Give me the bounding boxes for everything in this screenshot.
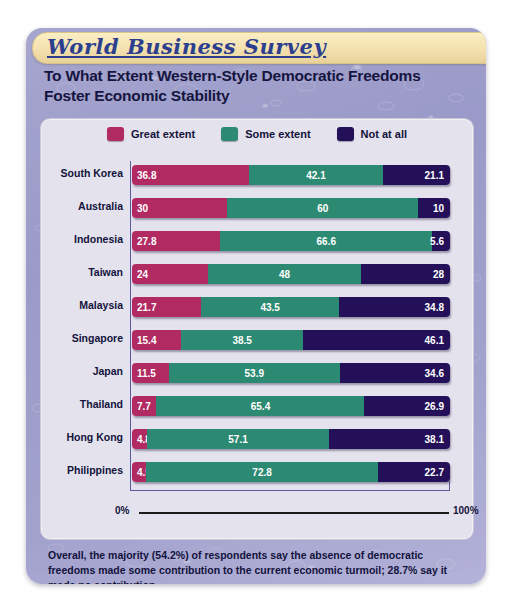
bar-segment-some: 43.5: [201, 297, 339, 317]
publication-banner: World Business Survey: [32, 32, 486, 64]
bar-segment-some: 72.8: [146, 462, 378, 482]
legend-swatch-icon-some-extent: [221, 127, 238, 141]
bar-value-label: 60: [227, 203, 418, 214]
bar-segment-none: 21.1: [383, 165, 450, 185]
bar-segment-great: 27.8: [132, 231, 220, 251]
chart-row: Thailand7.765.426.9: [53, 396, 461, 416]
stacked-bar-chart: South Korea36.842.121.1Australia306010In…: [53, 161, 461, 493]
bar-value-label: 26.9: [425, 401, 444, 412]
bar-segment-some: 38.5: [181, 330, 303, 350]
chart-row: Singapore15.438.546.1: [53, 330, 461, 350]
bar-value-label: 36.8: [137, 170, 156, 181]
bar-value-label: 72.8: [146, 467, 378, 478]
chart-row-label-taiwan: Taiwan: [53, 266, 123, 278]
stacked-bar: 306010: [132, 198, 450, 218]
chart-row-label-south-korea: South Korea: [53, 167, 123, 179]
stacked-bar: 244828: [132, 264, 450, 284]
bar-segment-great: 24: [132, 264, 208, 284]
bar-segment-some: 60: [227, 198, 418, 218]
bar-segment-none: 22.7: [378, 462, 450, 482]
bar-value-label: 28: [433, 269, 444, 280]
bar-value-label: 27.8: [137, 236, 156, 247]
x-axis-min-label: 0%: [115, 505, 129, 516]
bar-value-label: 30: [137, 203, 148, 214]
bar-segment-great: 11.5: [132, 363, 169, 383]
x-axis-baseline: [130, 490, 450, 491]
bar-value-label: 10: [433, 203, 444, 214]
bar-segment-none: 46.1: [303, 330, 450, 350]
bar-value-label: 43.5: [201, 302, 339, 313]
stacked-bar: 27.866.65.6: [132, 231, 450, 251]
chart-row-label-japan: Japan: [53, 365, 123, 377]
chart-row-label-hong-kong: Hong Kong: [53, 431, 123, 443]
legend-item-not-at-all: Not at all: [337, 127, 407, 141]
chart-row-label-philippines: Philippines: [53, 464, 123, 476]
bar-value-label: 38.5: [181, 335, 303, 346]
legend-item-some-extent: Some extent: [221, 127, 310, 141]
chart-row: Taiwan244828: [53, 264, 461, 284]
bar-segment-none: 10: [418, 198, 450, 218]
chart-legend: Great extent Some extent Not at all: [41, 127, 473, 141]
legend-label-great-extent: Great extent: [131, 128, 195, 140]
bar-value-label: 21.1: [425, 170, 444, 181]
bar-value-label: 48: [208, 269, 361, 280]
chart-row-label-indonesia: Indonesia: [53, 233, 123, 245]
bar-value-label: 42.1: [249, 170, 383, 181]
bar-value-label: 7.7: [137, 401, 151, 412]
bar-value-label: 11.5: [137, 368, 156, 379]
legend-item-great-extent: Great extent: [107, 127, 195, 141]
survey-card: World Business Survey To What Extent Wes…: [26, 28, 486, 584]
bar-segment-great: 4.5: [132, 462, 146, 482]
publication-title: World Business Survey: [47, 34, 326, 59]
bar-segment-some: 65.4: [156, 396, 364, 416]
legend-swatch-icon-not-at-all: [337, 127, 354, 141]
bar-value-label: 21.7: [137, 302, 156, 313]
chart-row-label-australia: Australia: [53, 200, 123, 212]
bar-segment-great: 21.7: [132, 297, 201, 317]
bar-segment-some: 53.9: [169, 363, 340, 383]
chart-footnote: Overall, the majority (54.2%) of respond…: [48, 548, 468, 584]
bar-value-label: 22.7: [425, 467, 444, 478]
bar-segment-some: 42.1: [249, 165, 383, 185]
bar-value-label: 53.9: [169, 368, 340, 379]
bar-segment-some: 57.1: [147, 429, 329, 449]
chart-row: Philippines4.572.822.7: [53, 462, 461, 482]
bar-segment-none: 38.1: [329, 429, 450, 449]
x-axis: 0% 100%: [53, 505, 461, 521]
legend-swatch-icon-great-extent: [107, 127, 124, 141]
bar-value-label: 34.6: [425, 368, 444, 379]
chart-row: Indonesia27.866.65.6: [53, 231, 461, 251]
chart-row-label-singapore: Singapore: [53, 332, 123, 344]
x-axis-rule: [139, 512, 449, 514]
bar-segment-none: 26.9: [364, 396, 450, 416]
bar-value-label: 34.8: [425, 302, 444, 313]
bar-segment-great: 4.8: [132, 429, 147, 449]
bar-segment-none: 34.8: [339, 297, 450, 317]
stacked-bar: 4.857.138.1: [132, 429, 450, 449]
stacked-bar: 15.438.546.1: [132, 330, 450, 350]
bar-value-label: 65.4: [156, 401, 364, 412]
bar-segment-some: 66.6: [220, 231, 432, 251]
bar-segment-none: 34.6: [340, 363, 450, 383]
bar-segment-none: 28: [361, 264, 450, 284]
stacked-bar: 36.842.121.1: [132, 165, 450, 185]
bar-segment-great: 36.8: [132, 165, 249, 185]
bar-segment-great: 30: [132, 198, 227, 218]
bar-segment-none: 5.6: [432, 231, 450, 251]
stacked-bar: 11.553.934.6: [132, 363, 450, 383]
stacked-bar: 21.743.534.8: [132, 297, 450, 317]
chart-row: Malaysia21.743.534.8: [53, 297, 461, 317]
bar-value-label: 5.6: [430, 236, 444, 247]
legend-label-some-extent: Some extent: [245, 128, 310, 140]
bar-value-label: 38.1: [425, 434, 444, 445]
bar-segment-great: 15.4: [132, 330, 181, 350]
chart-panel: Great extent Some extent Not at all Sout…: [40, 118, 474, 540]
stacked-bar: 7.765.426.9: [132, 396, 450, 416]
bar-segment-some: 48: [208, 264, 361, 284]
chart-row: South Korea36.842.121.1: [53, 165, 461, 185]
legend-label-not-at-all: Not at all: [361, 128, 407, 140]
stacked-bar: 4.572.822.7: [132, 462, 450, 482]
page-title: To What Extent Western-Style Democratic …: [44, 66, 444, 106]
chart-row: Hong Kong4.857.138.1: [53, 429, 461, 449]
chart-row: Australia306010: [53, 198, 461, 218]
